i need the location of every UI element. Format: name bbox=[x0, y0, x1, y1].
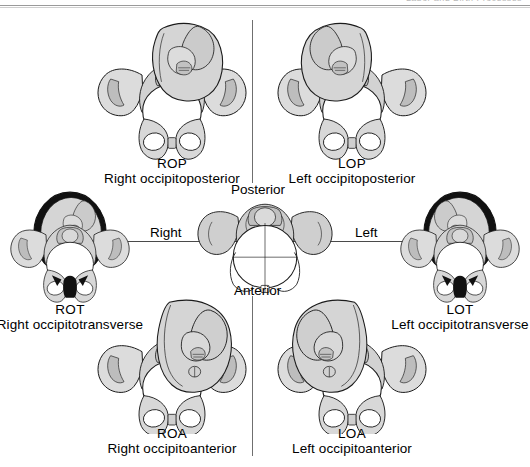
divider-vertical-top bbox=[252, 20, 253, 183]
center-pelvis-drawing bbox=[192, 196, 338, 296]
figure-loa-drawing bbox=[272, 292, 432, 434]
figure-rop: ROP Right occipitoposterior bbox=[92, 14, 252, 164]
figure-rot-drawing bbox=[6, 186, 134, 306]
figure-lop-abbr: LOP bbox=[272, 156, 432, 171]
figure-center-pelvis bbox=[192, 196, 338, 296]
figure-roa-drawing bbox=[92, 292, 252, 434]
figure-roa: ROA Right occipitoanterior bbox=[92, 292, 252, 434]
figure-loa-abbr: LOA bbox=[272, 426, 432, 441]
label-right: Right bbox=[150, 225, 182, 240]
figure-lot-drawing bbox=[396, 186, 524, 306]
figure-roa-abbr: ROA bbox=[92, 426, 252, 441]
figure-lop: LOP Left occipitoposterior bbox=[272, 14, 432, 164]
figure-roa-label: Right occipitoanterior bbox=[72, 441, 272, 456]
label-left: Left bbox=[355, 225, 378, 240]
figure-rot: ROT Right occipitotransverse bbox=[6, 186, 134, 306]
figure-lot: LOT Left occipitotransverse bbox=[396, 186, 524, 306]
label-posterior: Posterior bbox=[231, 182, 285, 197]
figure-lop-drawing bbox=[272, 14, 432, 164]
divider-vertical-bottom bbox=[252, 296, 253, 456]
figure-rop-drawing bbox=[92, 14, 252, 164]
figure-rop-abbr: ROP bbox=[92, 156, 252, 171]
label-anterior: Anterior bbox=[234, 283, 281, 298]
figure-loa: LOA Left occipitoanterior bbox=[272, 292, 432, 434]
illustration-canvas: Labor and Birth Processes bbox=[0, 0, 530, 467]
running-head: Labor and Birth Processes bbox=[406, 0, 522, 3]
top-rule-secondary bbox=[0, 7, 530, 8]
figure-loa-label: Left occipitoanterior bbox=[252, 441, 452, 456]
top-rule-primary bbox=[0, 5, 530, 6]
